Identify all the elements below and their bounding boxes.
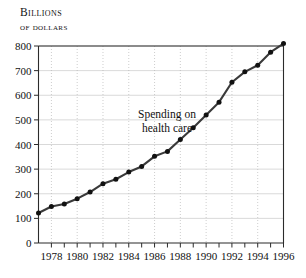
- data-point: 1979: 158: [62, 202, 67, 207]
- x-axis-tick-label: 1984: [118, 250, 141, 262]
- x-axis-tick-label: 1986: [144, 250, 167, 262]
- data-point: 1995: 775: [268, 50, 273, 55]
- data-point: 1993: 695: [242, 69, 247, 74]
- y-axis-tick-label: 100: [15, 212, 32, 224]
- data-point: 1985: 311: [139, 164, 144, 169]
- data-point: 1982: 241: [100, 181, 105, 186]
- data-point: 1984: 288: [126, 170, 131, 175]
- data-point: 1991: 572: [217, 100, 222, 105]
- series-annotation-line1: Spending on: [138, 108, 196, 121]
- data-point: 1987: 372: [165, 149, 170, 154]
- series-annotation-line2: health care: [142, 122, 192, 134]
- x-axis-tick-label: 1992: [221, 250, 243, 262]
- y-axis-tick-label: 400: [15, 139, 32, 151]
- x-axis-tick-label: 1996: [273, 250, 296, 262]
- data-point: 1994: 722: [255, 63, 260, 68]
- x-axis-tick-label: 1978: [40, 250, 63, 262]
- plot-surface: 0100200300400500600700800 19781980198219…: [0, 0, 306, 278]
- x-axis-tick-label: 1982: [92, 250, 114, 262]
- data-point: 1996: 810: [281, 41, 286, 46]
- x-axis-tick-label: 1994: [247, 250, 270, 262]
- y-axis-tick-label: 500: [15, 114, 32, 126]
- data-point: 1980: 180: [75, 196, 80, 201]
- y-axis-tick-label: 200: [15, 188, 32, 200]
- y-axis-tick-labels: 0100200300400500600700800: [15, 40, 32, 249]
- data-point: 1992: 653: [229, 80, 234, 85]
- y-axis-tick-label: 800: [15, 40, 32, 52]
- y-axis-tick-label: 600: [15, 89, 32, 101]
- data-point: 1986: 352: [152, 154, 157, 159]
- x-axis-tick-label: 1990: [195, 250, 218, 262]
- x-axis-tick-label: 1988: [169, 250, 192, 262]
- data-point: 1978: 148: [49, 204, 54, 209]
- health-care-spending-chart: Billions of dollars 01002003004005006007…: [0, 0, 306, 278]
- data-point: 1981: 207: [88, 190, 93, 195]
- data-point: 1977: 122: [36, 210, 41, 215]
- x-axis-tick-labels: 1978198019821984198619881990199219941996: [40, 250, 295, 262]
- x-axis-ticks: [51, 243, 283, 248]
- data-point: 1988: 420: [178, 137, 183, 142]
- y-axis-tick-label: 0: [26, 237, 32, 249]
- data-point: 1983: 259: [113, 177, 118, 182]
- x-axis-tick-label: 1980: [66, 250, 89, 262]
- y-axis-tick-label: 300: [15, 163, 32, 175]
- y-axis-tick-label: 700: [15, 65, 32, 77]
- data-point: 1990: 520: [204, 112, 209, 117]
